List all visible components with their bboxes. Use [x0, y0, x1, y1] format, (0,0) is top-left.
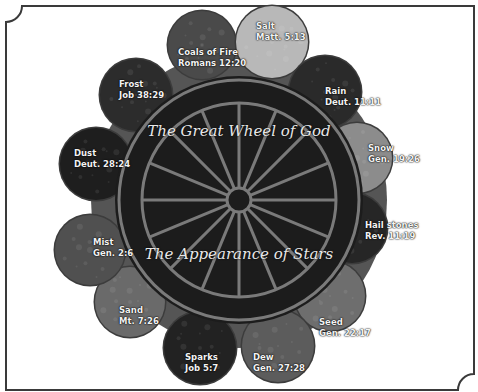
label-name: Snow [368, 143, 420, 154]
label-reference: Romans 12:20 [178, 58, 246, 69]
great-wheel [115, 76, 363, 324]
label-coals-of-fire: Coals of FireRomans 12:20 [178, 47, 246, 69]
label-hail-stones: Hail stonesRev. 11:19 [365, 220, 418, 242]
label-reference: Gen. 22:17 [319, 328, 371, 339]
label-name: Dust [74, 148, 130, 159]
label-reference: Job 38:29 [119, 90, 164, 101]
hub [227, 188, 251, 212]
label-name: Sparks [185, 352, 218, 363]
label-reference: Gen. 27:28 [253, 363, 305, 374]
label-name: Sand [119, 305, 159, 316]
label-dust: DustDeut. 28:24 [74, 148, 130, 170]
label-reference: Deut. 28:24 [74, 159, 130, 170]
label-dew: DewGen. 27:28 [253, 352, 305, 374]
label-name: Rain [325, 86, 381, 97]
label-name: Frost [119, 79, 164, 90]
label-name: Coals of Fire [178, 47, 246, 58]
label-snow: SnowGen. 19:26 [368, 143, 420, 165]
bubble-coals-of-fire [167, 10, 238, 81]
label-reference: Rev. 11:19 [365, 231, 418, 242]
label-reference: Gen. 19:26 [368, 154, 420, 165]
label-rain: RainDeut. 11:11 [325, 86, 381, 108]
label-reference: Job 5:7 [185, 363, 218, 374]
label-reference: Gen. 2:6 [93, 248, 133, 259]
label-name: Seed [319, 317, 371, 328]
title-appearance-of-stars: The Appearance of Stars [129, 245, 349, 263]
label-name: Mist [93, 237, 133, 248]
label-sparks: SparksJob 5:7 [185, 352, 218, 374]
label-name: Salt [256, 21, 306, 32]
title-great-wheel: The Great Wheel of God [139, 122, 339, 140]
label-salt: SaltMatt. 5:13 [256, 21, 306, 43]
label-reference: Matt. 5:13 [256, 32, 306, 43]
label-reference: Deut. 11:11 [325, 97, 381, 108]
label-reference: Mt. 7:26 [119, 316, 159, 327]
label-frost: FrostJob 38:29 [119, 79, 164, 101]
label-sand: SandMt. 7:26 [119, 305, 159, 327]
label-seed: SeedGen. 22:17 [319, 317, 371, 339]
label-name: Hail stones [365, 220, 418, 231]
label-mist: MistGen. 2:6 [93, 237, 133, 259]
label-name: Dew [253, 352, 305, 363]
